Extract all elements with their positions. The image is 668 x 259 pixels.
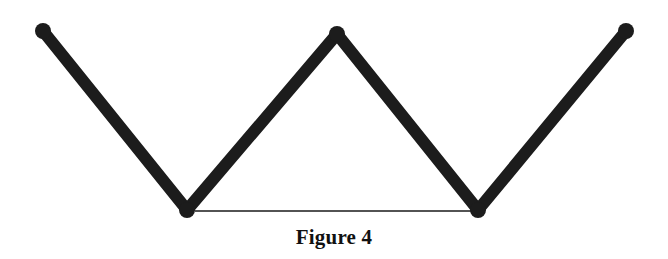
figure-caption: Figure 4	[0, 225, 668, 250]
joint-bottom-left	[179, 202, 195, 218]
rod-4	[478, 31, 626, 210]
joint-bottom-right	[470, 202, 486, 218]
joint-end-left	[35, 23, 51, 39]
joint-top-middle	[329, 26, 345, 42]
rod-linkage-diagram	[0, 0, 668, 259]
joint-end-right	[618, 23, 634, 39]
joints	[35, 23, 634, 218]
rods	[43, 31, 626, 210]
rod-3	[337, 34, 478, 210]
figure-canvas: Figure 4	[0, 0, 668, 259]
rod-2	[187, 34, 337, 210]
rod-1	[43, 31, 187, 210]
